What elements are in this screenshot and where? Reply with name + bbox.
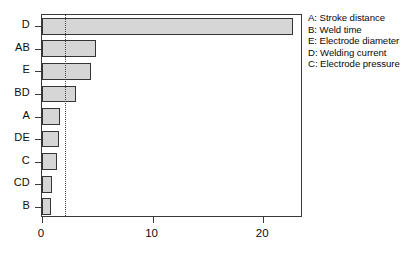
y-axis-label-B: B bbox=[0, 199, 30, 211]
y-axis-label-CD: CD bbox=[0, 176, 30, 188]
y-tick-C bbox=[35, 162, 42, 163]
y-axis-label-AB: AB bbox=[0, 41, 30, 53]
legend: A: Stroke distanceB: Weld timeE: Electro… bbox=[308, 12, 420, 70]
y-axis-label-DE: DE bbox=[0, 131, 30, 143]
y-axis-label-BD: BD bbox=[0, 86, 30, 98]
legend-entry-3: D: Welding current bbox=[308, 47, 420, 59]
y-tick-A bbox=[35, 117, 42, 118]
legend-entry-0: A: Stroke distance bbox=[308, 12, 420, 24]
bar-AB bbox=[42, 40, 96, 57]
y-tick-D bbox=[35, 26, 42, 27]
bar-BD bbox=[42, 86, 76, 103]
x-axis-label-10: 10 bbox=[145, 227, 158, 239]
plot-area bbox=[41, 14, 302, 217]
significance-threshold-line bbox=[65, 15, 66, 216]
bar-CD bbox=[42, 176, 52, 193]
bar-C bbox=[42, 153, 57, 170]
x-axis-label-0: 0 bbox=[38, 227, 44, 239]
pareto-effects-chart: DABEBDADECCDB01020 A: Stroke distanceB: … bbox=[0, 0, 420, 257]
bar-DE bbox=[42, 131, 59, 148]
legend-entry-2: E: Electrode diameter bbox=[308, 35, 420, 47]
y-tick-B bbox=[35, 207, 42, 208]
x-tick-0 bbox=[42, 216, 43, 223]
x-axis-label-20: 20 bbox=[256, 227, 269, 239]
legend-entry-1: B: Weld time bbox=[308, 24, 420, 36]
y-axis-label-C: C bbox=[0, 154, 30, 166]
bar-D bbox=[42, 18, 293, 35]
bars-layer bbox=[42, 15, 301, 216]
bar-B bbox=[42, 198, 51, 215]
y-tick-AB bbox=[35, 49, 42, 50]
x-tick-10 bbox=[153, 216, 154, 223]
y-axis-label-A: A bbox=[0, 109, 30, 121]
y-tick-BD bbox=[35, 94, 42, 95]
y-tick-E bbox=[35, 71, 42, 72]
y-tick-CD bbox=[35, 184, 42, 185]
y-tick-DE bbox=[35, 139, 42, 140]
x-tick-20 bbox=[263, 216, 264, 223]
bar-E bbox=[42, 63, 91, 80]
bar-A bbox=[42, 108, 60, 125]
y-axis-label-E: E bbox=[0, 63, 30, 75]
y-axis-label-D: D bbox=[0, 18, 30, 30]
legend-entry-4: C: Electrode pressure bbox=[308, 58, 420, 70]
